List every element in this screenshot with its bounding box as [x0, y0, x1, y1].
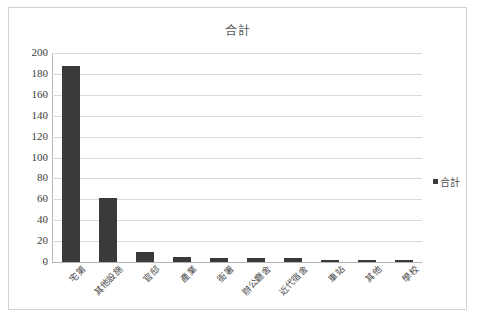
- y-tick-mark: [44, 199, 48, 200]
- y-axis-tick-labels: 200180160140120100806040200: [9, 53, 48, 262]
- y-tick-mark: [44, 158, 48, 159]
- y-tick-mark: [44, 241, 48, 242]
- bar[interactable]: [173, 257, 191, 262]
- y-tick-mark: [44, 95, 48, 96]
- bars-layer: [52, 53, 422, 262]
- x-tick-label: 其他: [362, 263, 384, 285]
- bar[interactable]: [321, 260, 339, 262]
- y-tick-mark: [44, 137, 48, 138]
- x-tick-label: 近代宿舍: [275, 263, 310, 298]
- bar[interactable]: [284, 258, 302, 262]
- x-tick-label: 衙署: [214, 263, 236, 285]
- x-tick-label: 官邸: [140, 263, 162, 285]
- x-tick-label: 宅第: [66, 263, 88, 285]
- bar[interactable]: [136, 252, 154, 262]
- y-tick-mark: [44, 220, 48, 221]
- bar[interactable]: [247, 258, 265, 262]
- chart-title: 合計: [9, 21, 466, 38]
- y-tick-mark: [44, 53, 48, 54]
- legend-square-marker-icon: [433, 179, 438, 184]
- y-tick-mark: [44, 116, 48, 117]
- bar[interactable]: [358, 260, 376, 262]
- y-tick-mark: [44, 262, 48, 263]
- legend-label: 合計: [440, 174, 460, 189]
- bar[interactable]: [210, 258, 228, 262]
- bar[interactable]: [395, 260, 413, 262]
- x-tick-label: 車站: [325, 263, 347, 285]
- y-tick-mark: [44, 178, 48, 179]
- x-axis-tick-labels: 宅第其他設施官邸產業衙署辦公廳舍近代宿舍車站其他學校: [52, 263, 422, 319]
- x-tick-label: 學校: [399, 263, 421, 285]
- bar[interactable]: [62, 66, 80, 262]
- x-tick-label: 產業: [177, 263, 199, 285]
- bar[interactable]: [99, 198, 117, 262]
- chart-frame: 合計 200180160140120100806040200 宅第其他設施官邸產…: [8, 7, 467, 310]
- y-tick-mark: [44, 74, 48, 75]
- x-tick-label: 其他設施: [90, 263, 125, 298]
- x-tick-label: 辦公廳舍: [238, 263, 273, 298]
- chart-legend[interactable]: 合計: [433, 174, 460, 189]
